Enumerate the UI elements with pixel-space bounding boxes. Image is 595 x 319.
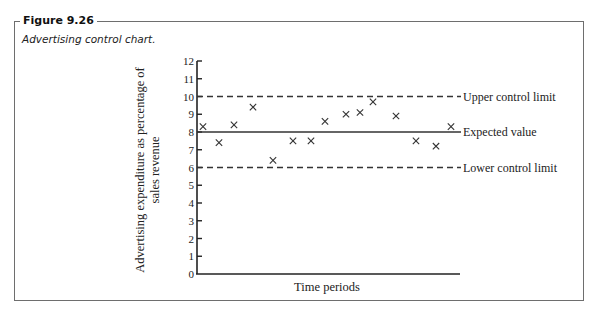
y-tick-label: 7: [189, 144, 195, 156]
y-tick-label: 4: [189, 197, 195, 209]
x-marker: [290, 138, 296, 144]
control-chart: 0123456789101112 Upper control limitExpe…: [0, 0, 595, 319]
y-axis-label: Advertising expenditure as percentage of…: [133, 66, 162, 272]
x-marker: [231, 122, 237, 128]
y-tick-label: 0: [189, 268, 195, 280]
y-axis-label-line-2: sales revenue: [148, 136, 162, 203]
reference-line-label: Upper control limit: [463, 90, 556, 104]
x-marker: [250, 104, 256, 110]
reference-lines: Upper control limitExpected valueLower c…: [197, 90, 558, 175]
x-marker: [393, 113, 399, 119]
x-marker: [357, 109, 363, 115]
x-axis-label: Time periods: [294, 280, 360, 294]
y-tick-label: 11: [183, 73, 194, 85]
y-tick-label: 10: [183, 91, 195, 103]
y-tick-label: 2: [189, 233, 195, 245]
x-marker: [413, 138, 419, 144]
y-tick-label: 3: [189, 215, 195, 227]
x-marker: [448, 123, 454, 129]
y-tick-label: 1: [189, 250, 195, 262]
x-marker: [322, 118, 328, 124]
x-marker: [270, 157, 276, 163]
reference-line-label: Lower control limit: [463, 161, 558, 175]
x-marker: [433, 143, 439, 149]
y-tick-label: 6: [189, 162, 195, 174]
y-tick-label: 9: [189, 108, 195, 120]
y-tick-label: 12: [183, 55, 194, 67]
y-axis-label-line-1: Advertising expenditure as percentage of: [133, 66, 147, 272]
y-tick-label: 5: [189, 179, 195, 191]
x-marker: [370, 99, 376, 105]
reference-line-label: Expected value: [463, 125, 537, 139]
y-tick-label: 8: [189, 126, 195, 138]
data-points: [200, 99, 454, 164]
x-marker: [216, 139, 222, 145]
x-marker: [343, 111, 349, 117]
x-marker: [200, 123, 206, 129]
x-marker: [308, 138, 314, 144]
